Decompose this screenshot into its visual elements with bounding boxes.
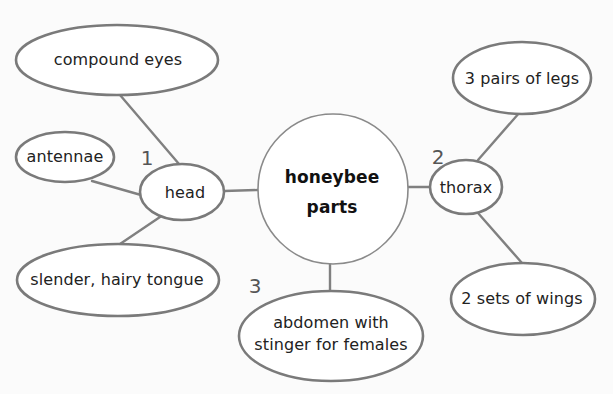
part-number-1: 1 (141, 146, 154, 170)
part-number-2: 2 (432, 145, 445, 169)
abdomen-label: abdomen with stinger for females (254, 312, 407, 356)
connector-head-center (224, 190, 258, 191)
compound-eyes-label: compound eyes (54, 49, 182, 71)
abdomen-label-line1: abdomen with (254, 312, 407, 334)
concept-web-diagram: honeybee parts head compound eyes antenn… (0, 0, 613, 394)
head-label: head (165, 182, 205, 204)
center-node-label: honeybee parts (285, 162, 380, 222)
thorax-label: thorax (440, 177, 493, 199)
antennae-label: antennae (27, 146, 104, 168)
part-number-3: 3 (249, 274, 262, 298)
abdomen-label-line2: stinger for females (254, 334, 407, 356)
connector-thorax-legs (478, 112, 520, 160)
slender-hairy-tongue-label: slender, hairy tongue (30, 269, 203, 291)
center-label-line2: parts (285, 192, 380, 222)
center-label-line1: honeybee (285, 162, 380, 192)
connector-head-antennae (92, 181, 141, 195)
3-pairs-of-legs-label: 3 pairs of legs (465, 68, 579, 90)
connector-head-tongue (120, 217, 160, 244)
connector-thorax-wings (478, 213, 522, 263)
2-sets-of-wings-label: 2 sets of wings (461, 288, 582, 310)
